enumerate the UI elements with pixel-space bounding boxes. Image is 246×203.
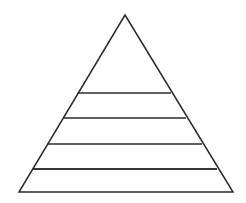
- pyramid-band-second[interactable]: [63, 93, 188, 118]
- pyramid-band-third[interactable]: [48, 118, 204, 144]
- pyramid-band-top[interactable]: [78, 68, 172, 93]
- pyramid-band-fourth[interactable]: [33, 144, 219, 169]
- pyramid-band-base[interactable]: [19, 169, 233, 192]
- pyramid-diagram: [0, 0, 246, 203]
